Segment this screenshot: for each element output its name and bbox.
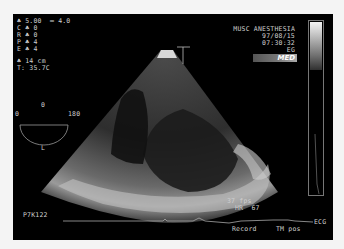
orientation-right-label: 180 xyxy=(68,111,80,118)
temperature-readout: T: 35.7C xyxy=(17,65,50,72)
heart-rate-label: HR 67 xyxy=(235,205,260,212)
mode-label: EG xyxy=(287,47,295,54)
grayscale-bar xyxy=(308,20,324,196)
orientation-semicircle-icon xyxy=(20,125,68,145)
med-logo: MED xyxy=(253,54,297,62)
tm-pos-label: TM pos xyxy=(276,226,301,233)
ultrasound-screen: ♣ 5.00 ═ 4.0 C ♣ 0 R ♣ 0 P ♣ 4 E ♣ 4 ♣ 1… xyxy=(13,14,333,240)
orientation-left-label: 0 xyxy=(15,111,19,118)
probe-id-label: P7K122 xyxy=(23,212,48,219)
logo-text: MED xyxy=(277,54,295,62)
ecg-label: ECG xyxy=(314,219,326,226)
orientation-bottom-label: L xyxy=(41,145,45,152)
enhancement-readout: E ♣ 4 xyxy=(17,46,38,53)
grayscale-gradient xyxy=(310,22,322,70)
ultrasound-sector-image xyxy=(13,14,333,240)
record-label: Record xyxy=(232,226,257,233)
cavity-left-region xyxy=(111,89,148,164)
orientation-top-label: 0 xyxy=(41,102,45,109)
